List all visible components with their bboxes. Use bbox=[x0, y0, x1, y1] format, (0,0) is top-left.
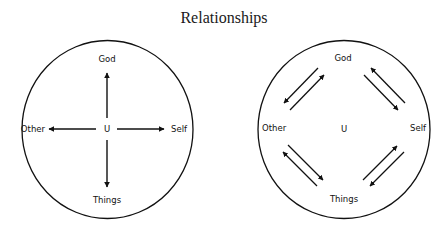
arrow-self-to-god bbox=[371, 68, 405, 103]
label-self: Self bbox=[171, 124, 188, 134]
label-other: Other bbox=[262, 123, 287, 133]
arrow-god-to-self bbox=[364, 75, 398, 110]
label-u: U bbox=[341, 124, 347, 134]
arrow-self-to-things bbox=[370, 152, 404, 186]
label-things: Things bbox=[329, 194, 359, 204]
hub-diagram: God U Self Other Things bbox=[21, 41, 193, 219]
label-u: U bbox=[104, 124, 110, 134]
relationships-diagram: God U Self Other Things God U Self Other… bbox=[0, 0, 448, 230]
label-god: God bbox=[98, 54, 115, 64]
label-god: God bbox=[334, 53, 351, 63]
cycle-diagram: God U Self Other Things bbox=[258, 41, 430, 219]
label-self: Self bbox=[410, 123, 427, 133]
label-things: Things bbox=[92, 195, 122, 205]
arrow-things-to-self bbox=[363, 146, 397, 180]
label-other: Other bbox=[21, 124, 46, 134]
